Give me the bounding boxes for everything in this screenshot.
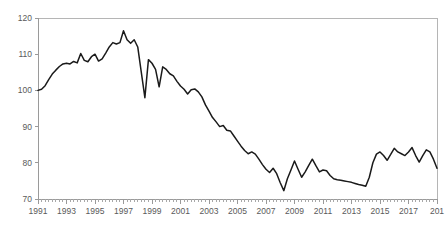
y-tick-label: 100 <box>18 85 32 95</box>
x-tick-label: 201 <box>430 206 444 216</box>
x-tick-label: 2003 <box>200 206 219 216</box>
x-tick-label: 2015 <box>371 206 390 216</box>
series-line <box>38 31 437 191</box>
x-tick-label: 2017 <box>399 206 418 216</box>
chart-canvas: 7080901001101201991199319951997199920012… <box>0 0 448 229</box>
y-tick-label: 90 <box>23 122 33 132</box>
x-tick-label: 1997 <box>114 206 133 216</box>
x-tick-label: 1995 <box>86 206 105 216</box>
x-tick-label: 2005 <box>228 206 247 216</box>
x-tick-label: 2001 <box>171 206 190 216</box>
x-tick-label: 1999 <box>143 206 162 216</box>
y-tick-label: 80 <box>23 158 33 168</box>
x-tick-label: 2013 <box>342 206 361 216</box>
x-tick-label: 2009 <box>285 206 304 216</box>
x-tick-label: 1993 <box>57 206 76 216</box>
x-tick-label: 1991 <box>29 206 48 216</box>
line-chart: 7080901001101201991199319951997199920012… <box>0 0 448 229</box>
x-tick-label: 2011 <box>314 206 333 216</box>
x-tick-label: 2007 <box>257 206 276 216</box>
y-tick-label: 70 <box>23 194 33 204</box>
y-tick-label: 110 <box>18 49 32 59</box>
y-tick-label: 120 <box>18 13 32 23</box>
